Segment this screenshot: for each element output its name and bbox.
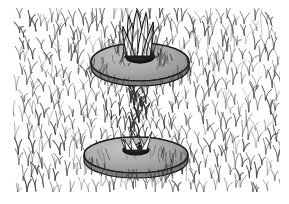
figure-root: Grass field with two stacked disc collar… — [0, 0, 289, 204]
illustration-canvas — [0, 0, 289, 204]
